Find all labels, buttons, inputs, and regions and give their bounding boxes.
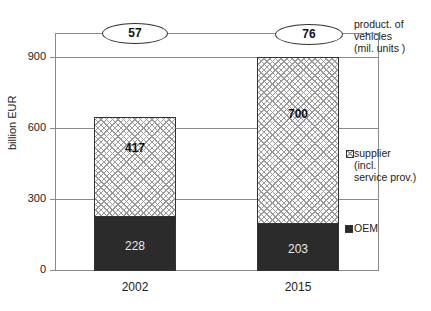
- y-tick-label: 300: [6, 192, 46, 204]
- legend-text-line: (mil. units ): [354, 42, 405, 54]
- y-tick-mark: [50, 128, 55, 129]
- legend-oem: OEM: [354, 222, 378, 234]
- y-tick-mark: [50, 199, 55, 200]
- bar-2002-supplier: 417: [94, 117, 176, 217]
- bar-2015-oem: 203: [257, 223, 339, 271]
- y-tick-label: 900: [6, 50, 46, 62]
- legend-text-line: service prov.): [354, 171, 416, 183]
- bar-value-label: 417: [95, 141, 175, 155]
- vehicles-annotation-2015: 76: [275, 24, 343, 45]
- legend-text-line: product. of: [354, 18, 405, 30]
- x-tick-label: 2002: [94, 280, 176, 294]
- legend-swatch-supplier: [346, 150, 354, 158]
- bar-value-label: 228: [95, 239, 175, 253]
- y-axis-label: billion EUR: [6, 96, 18, 150]
- y-tick-mark: [50, 57, 55, 58]
- legend-supplier: supplier (incl. service prov.): [354, 147, 416, 183]
- bar-2015-supplier: 700: [257, 57, 339, 224]
- legend-text-line: (incl.: [354, 159, 416, 171]
- legend-vehicles: product. of vehicles (mil. units ): [354, 18, 405, 54]
- bar-value-label: 700: [258, 107, 338, 121]
- legend-text-line: vehicles: [354, 30, 405, 42]
- legend-swatch-oem: [345, 225, 353, 233]
- bar-2002-oem: 228: [94, 216, 176, 271]
- y-tick-label: 0: [6, 263, 46, 275]
- vehicles-annotation-2002: 57: [102, 23, 168, 44]
- legend-text-line: supplier: [354, 147, 416, 159]
- bar-value-label: 203: [258, 242, 338, 256]
- x-tick-label: 2015: [257, 280, 339, 294]
